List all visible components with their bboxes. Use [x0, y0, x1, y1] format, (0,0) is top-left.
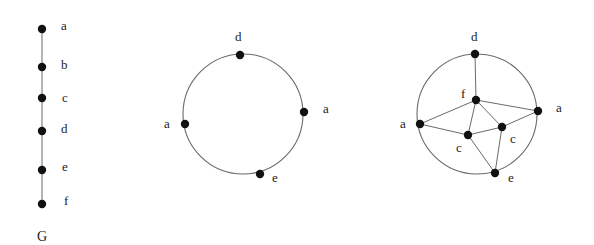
node-label-c: c — [62, 90, 68, 105]
node-label-d: d — [235, 29, 242, 44]
node-label-f: f — [64, 193, 69, 208]
node-label-d: d — [471, 29, 478, 44]
node-e — [491, 169, 499, 177]
edge-c-c — [468, 127, 502, 135]
node-label-a-left: a — [164, 116, 170, 131]
node-d — [38, 127, 46, 135]
node-label-d: d — [61, 121, 68, 136]
node-a-right — [534, 107, 542, 115]
node-c — [38, 94, 46, 102]
node-a — [38, 25, 46, 33]
node-a-right — [300, 108, 308, 116]
node-d — [471, 50, 479, 58]
node-b — [38, 63, 46, 71]
node-e — [38, 166, 46, 174]
embedded-graph: d f a a c c e — [400, 29, 562, 185]
node-label-a-right: a — [556, 100, 562, 115]
circle-edge — [417, 54, 537, 174]
node-d — [236, 51, 244, 59]
edge-c-a — [502, 111, 538, 127]
node-label-a-right: a — [323, 101, 329, 116]
edge-f-a — [420, 100, 476, 124]
edge-c-e — [468, 135, 495, 173]
edge-f-c — [468, 100, 476, 135]
node-a-left — [181, 120, 189, 128]
edge-d-f — [475, 54, 476, 100]
circle-edge — [183, 54, 303, 174]
circle-graph: d a a e — [164, 29, 329, 185]
node-label-c-left: c — [456, 140, 462, 155]
node-label-a: a — [61, 18, 67, 33]
diagram-canvas: a b c d e f G d a a e — [0, 0, 594, 245]
graph-caption: G — [37, 229, 47, 244]
node-label-a-left: a — [400, 116, 406, 131]
node-label-e: e — [62, 159, 68, 174]
node-e — [256, 170, 264, 178]
node-label-e: e — [508, 170, 514, 185]
node-c-right — [498, 123, 506, 131]
edge-a-c — [420, 124, 468, 135]
node-label-b: b — [61, 57, 68, 72]
node-label-c-right: c — [510, 131, 516, 146]
node-f — [38, 200, 46, 208]
edge-c-e — [495, 127, 502, 173]
node-a-left — [416, 120, 424, 128]
node-label-f: f — [461, 86, 466, 101]
path-graph: a b c d e f G — [37, 18, 69, 244]
node-c-left — [464, 131, 472, 139]
node-label-e: e — [272, 170, 278, 185]
node-f — [472, 96, 480, 104]
